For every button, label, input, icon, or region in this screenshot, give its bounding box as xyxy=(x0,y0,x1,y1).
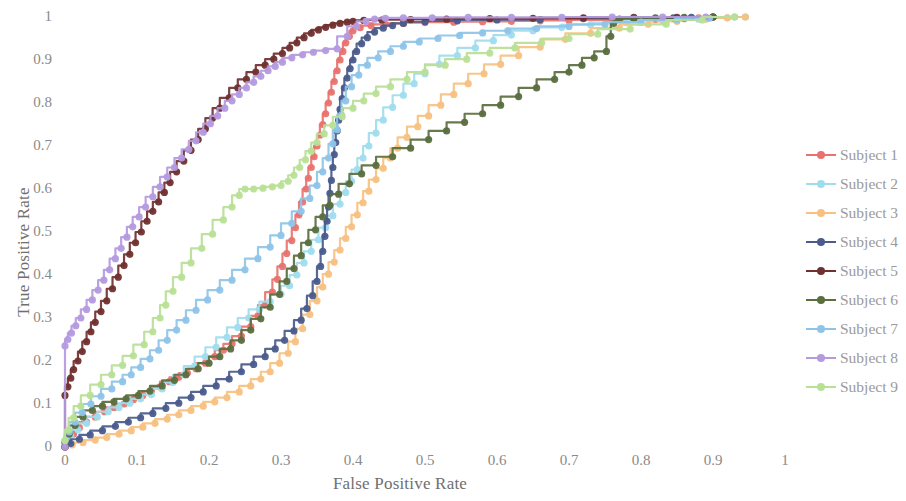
data-point xyxy=(200,388,207,395)
data-point xyxy=(164,337,171,344)
data-point xyxy=(437,102,444,109)
data-point xyxy=(299,325,306,332)
legend-item-subject-7[interactable]: Subject 7 xyxy=(806,314,906,343)
legend-label: Subject 6 xyxy=(840,291,898,309)
legend-item-subject-9[interactable]: Subject 9 xyxy=(806,372,906,401)
data-point xyxy=(105,408,112,415)
data-point xyxy=(76,436,83,443)
data-point xyxy=(329,22,336,29)
data-point xyxy=(227,345,234,352)
data-point xyxy=(328,177,335,184)
data-point xyxy=(336,200,343,207)
data-point xyxy=(434,35,441,42)
data-point xyxy=(511,44,518,51)
legend-item-subject-6[interactable]: Subject 6 xyxy=(806,285,906,314)
data-point xyxy=(290,265,297,272)
data-point xyxy=(204,296,211,303)
data-point xyxy=(322,110,329,117)
data-point xyxy=(336,246,343,253)
data-point xyxy=(372,176,379,183)
data-point xyxy=(627,25,634,32)
data-point xyxy=(322,24,329,31)
data-point xyxy=(115,431,122,438)
legend-item-subject-1[interactable]: Subject 1 xyxy=(806,140,906,169)
plot-area: 00.10.20.30.40.50.60.70.80.91 00.10.20.3… xyxy=(0,0,800,501)
data-point xyxy=(135,392,142,399)
legend-item-subject-4[interactable]: Subject 4 xyxy=(806,227,906,256)
data-point xyxy=(83,306,90,313)
data-point xyxy=(100,277,107,284)
data-point xyxy=(155,198,162,205)
data-point xyxy=(136,213,143,220)
data-point xyxy=(450,91,457,98)
data-point xyxy=(236,192,243,199)
curve-line xyxy=(65,17,713,443)
legend-item-subject-5[interactable]: Subject 5 xyxy=(806,256,906,285)
data-point xyxy=(290,172,297,179)
data-point xyxy=(254,255,261,262)
data-point xyxy=(486,15,493,22)
data-point xyxy=(342,235,349,242)
data-point xyxy=(389,153,396,160)
data-point xyxy=(64,336,71,343)
data-point xyxy=(156,314,163,321)
data-point xyxy=(515,93,522,100)
data-point xyxy=(313,139,320,146)
data-point xyxy=(565,23,572,30)
data-point xyxy=(354,211,361,218)
data-point xyxy=(156,183,163,190)
data-point xyxy=(565,68,572,75)
data-point xyxy=(290,327,297,334)
data-point xyxy=(601,21,608,28)
data-point xyxy=(126,251,133,258)
legend-marker-dot-icon xyxy=(817,354,825,362)
x-tick-label: 1 xyxy=(765,452,805,469)
data-point xyxy=(353,23,360,30)
legend-item-subject-2[interactable]: Subject 2 xyxy=(806,169,906,198)
data-point xyxy=(364,62,371,69)
data-point xyxy=(142,203,149,210)
data-point xyxy=(342,189,349,196)
data-point xyxy=(286,44,293,51)
data-point xyxy=(305,175,312,182)
chart-legend: Subject 1Subject 2Subject 3Subject 4Subj… xyxy=(806,140,906,401)
data-point xyxy=(308,164,315,171)
curve-line xyxy=(65,17,735,441)
data-point xyxy=(89,407,96,414)
data-point xyxy=(106,266,113,273)
data-point xyxy=(329,212,336,219)
data-point xyxy=(299,51,306,58)
y-axis-title: True Positive Rate xyxy=(14,142,34,362)
data-point xyxy=(110,398,117,405)
data-point xyxy=(285,350,292,357)
data-point xyxy=(349,56,356,63)
data-point xyxy=(195,365,202,372)
data-point xyxy=(414,123,421,130)
data-point xyxy=(372,162,379,169)
legend-swatch-icon xyxy=(806,293,836,307)
data-point xyxy=(83,420,90,427)
data-point xyxy=(250,361,257,368)
data-point xyxy=(630,15,637,22)
legend-item-subject-8[interactable]: Subject 8 xyxy=(806,343,906,372)
data-point xyxy=(387,83,394,90)
data-point xyxy=(68,329,75,336)
data-point xyxy=(490,37,497,44)
data-point xyxy=(185,146,192,153)
data-point xyxy=(200,403,207,410)
data-point xyxy=(465,80,472,87)
data-point xyxy=(293,39,300,46)
legend-label: Subject 3 xyxy=(840,204,898,222)
data-point xyxy=(257,375,264,382)
data-point xyxy=(211,398,218,405)
legend-item-subject-3[interactable]: Subject 3 xyxy=(806,198,906,227)
data-point xyxy=(497,61,504,68)
legend-label: Subject 8 xyxy=(840,349,898,367)
data-point xyxy=(109,285,116,292)
data-point xyxy=(128,427,135,434)
data-point xyxy=(303,305,310,312)
data-point xyxy=(403,76,410,83)
x-tick-label: 0.8 xyxy=(621,452,661,469)
data-point xyxy=(336,56,343,63)
data-point xyxy=(213,382,220,389)
